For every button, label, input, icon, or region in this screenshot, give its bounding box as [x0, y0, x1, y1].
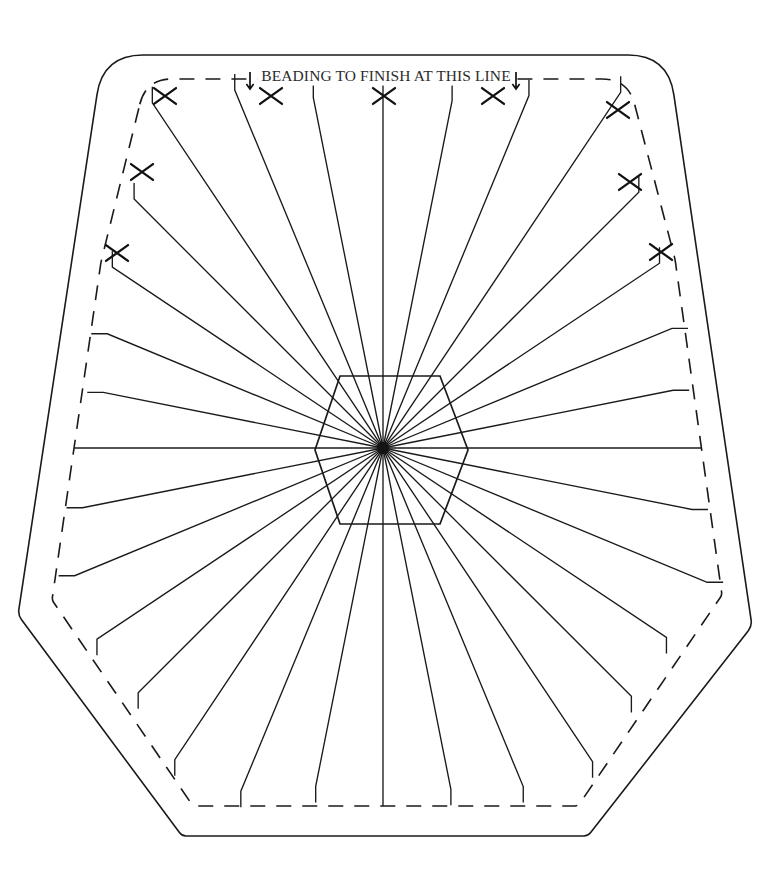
- mark-top-center-icon: [373, 88, 395, 104]
- beading-note-label: BEADING TO FINISH AT THIS LINE: [261, 67, 510, 84]
- radiating-ray: [383, 390, 689, 448]
- radiating-ray: [383, 448, 593, 778]
- radiating-ray: [138, 448, 383, 709]
- radiating-ray: [383, 176, 639, 448]
- mark-top-left-inner-icon: [260, 88, 282, 104]
- left-arrow-icon: [246, 72, 253, 89]
- radiating-ray: [383, 448, 708, 509]
- registration-marks-group: [106, 88, 672, 261]
- radiating-ray: [152, 87, 383, 448]
- radiating-ray: [134, 183, 383, 448]
- pattern-diagram: BEADING TO FINISH AT THIS LINE: [0, 0, 773, 875]
- radiating-ray: [313, 82, 383, 448]
- radiating-ray: [175, 448, 383, 776]
- radiating-ray: [383, 76, 621, 448]
- mark-top-right-outer-icon: [607, 102, 629, 118]
- mark-left-upper-icon: [131, 164, 153, 180]
- mark-top-left-outer-icon: [154, 88, 176, 104]
- radiating-ray: [383, 448, 631, 712]
- mark-right-upper-icon: [619, 174, 641, 190]
- mark-left-lower-icon: [106, 245, 128, 261]
- radiating-ray: [383, 85, 452, 448]
- radiating-ray: [241, 448, 383, 807]
- radiating-ray: [67, 448, 383, 508]
- beading-note-group: BEADING TO FINISH AT THIS LINE: [246, 65, 519, 89]
- radiating-ray: [235, 74, 383, 448]
- radiating-ray: [316, 448, 383, 802]
- center-hub-dot: [377, 442, 389, 454]
- radiating-ray: [383, 448, 451, 805]
- radiating-ray: [383, 80, 529, 448]
- radiating-ray: [87, 392, 383, 448]
- mark-top-right-inner-icon: [482, 88, 504, 104]
- pattern-canvas: BEADING TO FINISH AT THIS LINE: [0, 0, 773, 875]
- radiating-rays-group: [59, 74, 724, 807]
- mark-right-lower-icon: [650, 244, 672, 260]
